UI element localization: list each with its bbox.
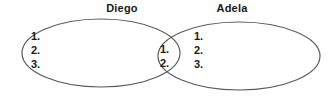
set-label-adela: Adela bbox=[217, 2, 248, 14]
list-item: 2. bbox=[194, 43, 203, 57]
list-diego-only: 1. 2. 3. bbox=[31, 29, 40, 71]
list-item: 3. bbox=[194, 57, 203, 71]
list-item: 3. bbox=[31, 57, 40, 71]
ellipse-adela bbox=[158, 22, 320, 90]
list-adela-only: 1. 2. 3. bbox=[194, 29, 203, 71]
list-item: 1. bbox=[194, 29, 203, 43]
list-item: 1. bbox=[160, 42, 169, 56]
ellipse-diego bbox=[22, 19, 180, 87]
list-item: 2. bbox=[160, 56, 169, 70]
list-intersection: 1. 2. bbox=[160, 42, 169, 70]
set-label-diego: Diego bbox=[106, 2, 138, 14]
list-item: 1. bbox=[31, 29, 40, 43]
venn-diagram-canvas: Diego Adela 1. 2. 3. 1. 2. 1. 2. 3. bbox=[0, 0, 336, 100]
list-item: 2. bbox=[31, 43, 40, 57]
